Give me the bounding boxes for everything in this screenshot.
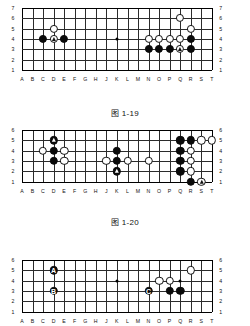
row-label-right: 7 — [219, 5, 222, 11]
column-label: D — [52, 76, 56, 82]
grid-line-horizontal — [22, 182, 212, 183]
go-board-grid: ABC — [22, 260, 212, 312]
column-label: O — [157, 318, 161, 324]
column-label: O — [157, 76, 161, 82]
row-label-left: 3 — [11, 288, 14, 294]
column-label: T — [210, 188, 213, 194]
column-label: T — [210, 76, 213, 82]
row-label-left: 3 — [11, 46, 14, 52]
grid-line-vertical — [85, 130, 86, 182]
star-point — [179, 279, 182, 282]
white-stone[interactable] — [208, 136, 216, 144]
grid-line-vertical — [85, 260, 86, 312]
grid-line-vertical — [117, 260, 118, 312]
row-label-right: 4 — [219, 148, 222, 154]
grid-line-vertical — [201, 260, 202, 312]
row-label-left: 6 — [11, 15, 14, 21]
column-label: J — [105, 188, 108, 194]
column-label: F — [73, 76, 76, 82]
column-label: D — [52, 318, 56, 324]
caption-1-19: 图 1-19 — [0, 107, 250, 118]
column-label: E — [62, 188, 66, 194]
column-label: R — [189, 188, 193, 194]
column-label: N — [147, 318, 151, 324]
column-label: K — [115, 76, 119, 82]
column-label: T — [210, 318, 213, 324]
grid-line-vertical — [212, 260, 213, 312]
grid-line-vertical — [33, 260, 34, 312]
black-stone[interactable] — [187, 177, 195, 185]
white-stone[interactable] — [197, 177, 205, 185]
row-label-right: 4 — [219, 278, 222, 284]
board-1-20[interactable] — [22, 130, 212, 182]
row-label-left: 1 — [11, 179, 14, 185]
grid-line-horizontal — [22, 130, 212, 131]
caption-1-20: 图 1-20 — [0, 216, 250, 227]
column-label: L — [126, 76, 129, 82]
board-1-19[interactable] — [22, 8, 212, 70]
column-label: C — [41, 76, 45, 82]
column-label: L — [126, 318, 129, 324]
grid-line-horizontal — [22, 260, 212, 261]
go-diagram-page: ABCDEFGHJKLMNOPQRST77665544332211 图 1-19… — [0, 0, 250, 326]
column-label: P — [168, 318, 172, 324]
grid-line-vertical — [33, 130, 34, 182]
go-board-grid — [22, 130, 212, 182]
column-label: K — [115, 188, 119, 194]
grid-line-vertical — [138, 260, 139, 312]
grid-line-vertical — [22, 130, 23, 182]
grid-line-vertical — [159, 130, 160, 182]
board-3[interactable]: ABC — [22, 260, 212, 312]
column-label: H — [94, 318, 98, 324]
row-label-right: 4 — [219, 36, 222, 42]
row-label-left: 3 — [11, 158, 14, 164]
column-label: P — [168, 188, 172, 194]
grid-line-horizontal — [22, 312, 212, 313]
row-label-right: 5 — [219, 267, 222, 273]
column-label: N — [147, 76, 151, 82]
column-label: D — [52, 188, 56, 194]
column-label: H — [94, 188, 98, 194]
column-label: M — [136, 318, 141, 324]
row-label-left: 6 — [11, 127, 14, 133]
row-label-right: 1 — [219, 67, 222, 73]
column-label: Q — [178, 318, 182, 324]
row-label-left: 2 — [11, 168, 14, 174]
column-label: Q — [178, 76, 182, 82]
grid-line-vertical — [159, 260, 160, 312]
diagram-1-19: ABCDEFGHJKLMNOPQRST77665544332211 — [0, 0, 250, 110]
row-label-left: 4 — [11, 36, 14, 42]
go-board-grid — [22, 8, 212, 70]
row-label-right: 5 — [219, 137, 222, 143]
column-label: C — [41, 318, 45, 324]
row-label-right: 3 — [219, 158, 222, 164]
grid-line-vertical — [43, 260, 44, 312]
row-label-right: 3 — [219, 46, 222, 52]
diagram-1-20: ABCDEFGHJKLMNOPQRST665544332211 — [0, 126, 250, 216]
row-label-right: 6 — [219, 15, 222, 21]
column-label: P — [168, 76, 172, 82]
grid-line-vertical — [170, 130, 171, 182]
triangle-marker-icon — [178, 47, 182, 51]
grid-line-horizontal — [22, 60, 212, 61]
column-label: L — [126, 188, 129, 194]
column-label: E — [62, 76, 66, 82]
row-label-right: 6 — [219, 257, 222, 263]
column-label: R — [189, 76, 193, 82]
row-label-right: 2 — [219, 298, 222, 304]
column-label: C — [41, 188, 45, 194]
row-label-left: 5 — [11, 137, 14, 143]
row-label-right: 1 — [219, 309, 222, 315]
row-label-right: 2 — [219, 57, 222, 63]
grid-line-vertical — [96, 130, 97, 182]
row-label-right: 1 — [219, 179, 222, 185]
star-point — [115, 37, 118, 40]
row-label-right: 2 — [219, 168, 222, 174]
triangle-marker-icon — [115, 169, 119, 173]
column-label: H — [94, 76, 98, 82]
column-label: A — [20, 76, 24, 82]
grid-line-vertical — [128, 260, 129, 312]
column-label: N — [147, 188, 151, 194]
stone-label: B — [51, 287, 56, 294]
column-label: A — [20, 318, 24, 324]
